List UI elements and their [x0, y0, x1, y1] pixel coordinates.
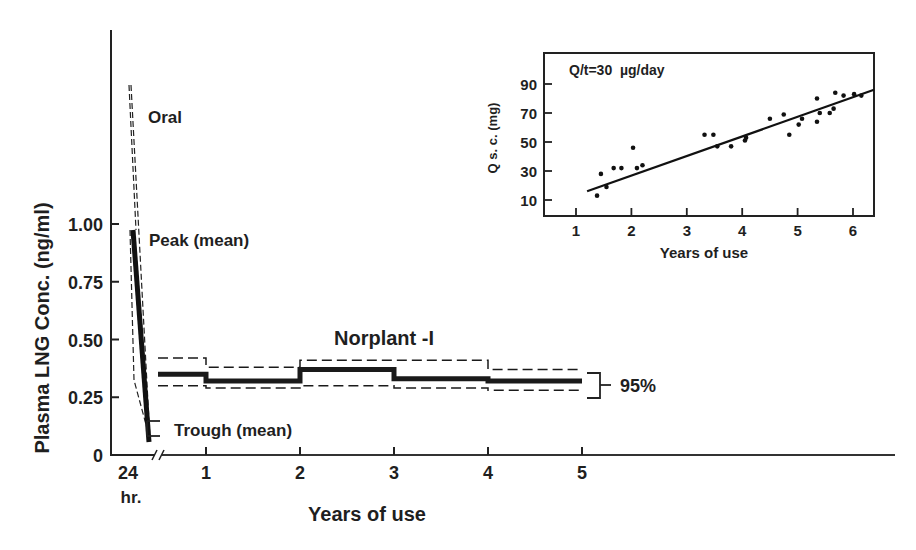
data-point	[619, 166, 624, 171]
trough-label: Trough (mean)	[174, 421, 292, 440]
data-point	[796, 122, 801, 127]
data-point	[841, 93, 846, 98]
inset-y-tick-label: 10	[520, 192, 537, 209]
inset-x-tick-label: 5	[793, 222, 801, 239]
chart-canvas: 00.250.500.751.00 24hr.12345 Plasma LNG …	[0, 0, 916, 550]
mean-step-line	[158, 370, 582, 382]
data-point	[599, 172, 604, 177]
inset-x-tick-label: 6	[849, 222, 857, 239]
peak-label: Peak (mean)	[149, 231, 249, 250]
data-point	[711, 132, 716, 137]
inset-y-tick-label: 30	[520, 163, 537, 180]
chart-title: Norplant -I	[334, 327, 434, 349]
y-tick-label: 0.75	[68, 273, 103, 293]
data-point	[611, 166, 616, 171]
data-point	[781, 112, 786, 117]
inset-x-tick-label: 2	[627, 222, 635, 239]
ci-label: 95%	[620, 376, 656, 396]
data-point	[768, 117, 773, 122]
oral-dose-lines	[129, 85, 160, 442]
inset-chart: Q/t=30 µg/day 1030507090 123456 Q s. c. …	[485, 53, 874, 261]
data-point	[702, 132, 707, 137]
axis-break-icon	[152, 450, 164, 460]
data-point	[595, 193, 600, 198]
x-tick-label: 4	[483, 463, 493, 483]
inset-y-axis-label: Q s. c. (mg)	[485, 103, 500, 174]
inset-x-axis-label: Years of use	[660, 244, 748, 261]
inset-y-tick-label: 50	[520, 134, 537, 151]
inset-x-tick-label: 4	[738, 222, 747, 239]
data-point	[833, 90, 838, 95]
data-point	[827, 111, 832, 116]
inset-x-tick-label: 3	[683, 222, 691, 239]
ci-step-line	[158, 386, 582, 391]
data-point	[640, 163, 645, 168]
x-tick-label: 3	[389, 463, 399, 483]
x-tick-label: 24	[118, 463, 138, 483]
y-tick-label: 0.25	[68, 388, 103, 408]
ci-bracket	[587, 373, 611, 398]
data-point	[635, 166, 640, 171]
data-point	[817, 111, 822, 116]
data-point	[815, 96, 820, 101]
data-point	[631, 146, 636, 151]
step-series	[158, 358, 582, 390]
inset-x-tick-label: 1	[572, 222, 580, 239]
data-point	[729, 144, 734, 149]
y-axis-label: Plasma LNG Conc. (ng/ml)	[31, 202, 53, 453]
data-point	[815, 119, 820, 124]
data-point	[831, 106, 836, 111]
x-tick-label: 5	[577, 463, 587, 483]
x-tick-label: 1	[201, 463, 211, 483]
inset-title: Q/t=30 µg/day	[569, 62, 665, 78]
data-point	[787, 132, 792, 137]
oral-label: Oral	[148, 108, 182, 127]
y-tick-label: 0	[93, 446, 103, 466]
y-tick-label: 1.00	[68, 215, 103, 235]
x-axis-label: Years of use	[308, 503, 426, 525]
x-tick-sublabel: hr.	[121, 488, 142, 507]
x-tick-label: 2	[295, 463, 305, 483]
inset-y-tick-label: 90	[520, 76, 537, 93]
inset-y-tick-label: 70	[520, 105, 537, 122]
data-point	[800, 117, 805, 122]
y-tick-label: 0.50	[68, 331, 103, 351]
